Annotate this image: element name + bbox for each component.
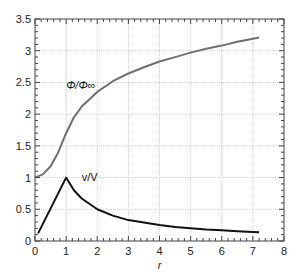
x-axis-label: r xyxy=(158,259,163,271)
y-tick-label: 1.5 xyxy=(16,140,31,152)
y-tick-label: 2 xyxy=(25,108,31,120)
phi-ratio-curve xyxy=(35,37,259,177)
x-tick-label: 7 xyxy=(250,245,256,257)
y-tick-label: 1 xyxy=(25,172,31,184)
x-tick-label: 0 xyxy=(32,245,38,257)
x-tick-label: 1 xyxy=(63,245,69,257)
x-tick-label: 4 xyxy=(156,245,162,257)
y-tick-label: 3.5 xyxy=(16,13,31,25)
x-tick-label: 5 xyxy=(188,245,194,257)
y-tick-label: 2.5 xyxy=(16,76,31,88)
line-chart: 01234567800.511.522.533.5 Φ/Φ∞v/V r xyxy=(0,0,298,278)
velocity-ratio-label: v/V xyxy=(82,171,99,183)
y-tick-label: 0.5 xyxy=(16,203,31,215)
x-tick-label: 2 xyxy=(94,245,100,257)
y-tick-label: 3 xyxy=(25,45,31,57)
grid-lines xyxy=(35,19,284,241)
phi-ratio-label: Φ/Φ∞ xyxy=(66,79,95,91)
data-series xyxy=(35,37,259,233)
velocity-ratio-curve xyxy=(38,178,259,234)
tick-labels: 01234567800.511.522.533.5 xyxy=(16,13,287,257)
x-tick-label: 6 xyxy=(219,245,225,257)
x-tick-label: 8 xyxy=(281,245,287,257)
x-tick-label: 3 xyxy=(125,245,131,257)
y-tick-label: 0 xyxy=(25,235,31,247)
